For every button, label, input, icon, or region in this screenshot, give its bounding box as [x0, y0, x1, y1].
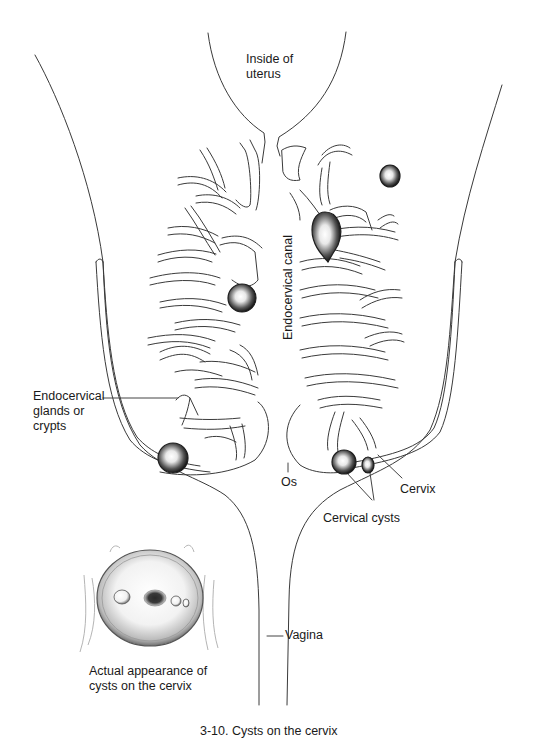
label-glands-line1: Endocervical: [33, 389, 105, 404]
inset-cyst-2: [171, 596, 181, 606]
cyst-left-middle: [228, 284, 256, 312]
cervix-leader-line: [378, 455, 402, 478]
figure-caption: 3-10. Cysts on the cervix: [200, 724, 338, 739]
label-glands-line3: crypts: [33, 419, 105, 434]
right-endocervical-glands: [282, 145, 404, 452]
inset-caption-line1: Actual appearance of: [89, 664, 207, 679]
label-vagina: Vagina: [285, 628, 323, 643]
cervix-wall-right-outer: [352, 262, 462, 468]
label-inside-uterus: Inside of uterus: [246, 52, 293, 82]
label-cervix: Cervix: [400, 482, 435, 497]
cyst-left-bottom: [158, 443, 188, 473]
cyst-teardrop: [312, 212, 341, 262]
label-endocervical-canal: Endocervical canal: [281, 235, 295, 340]
cyst-right-bottom-large: [332, 450, 356, 474]
cervix-wall-left-inner: [103, 262, 200, 466]
inset-caption-line2: cysts on the cervix: [89, 679, 207, 694]
cysts-leader-line-2: [370, 473, 374, 500]
label-endocervical-glands: Endocervical glands or crypts: [33, 389, 105, 434]
label-inset-caption: Actual appearance of cysts on the cervix: [89, 664, 207, 694]
label-os: Os: [281, 475, 297, 490]
cyst-top-right: [380, 165, 400, 187]
cyst-right-bottom-small: [362, 457, 374, 473]
label-glands-line2: glands or: [33, 404, 105, 419]
label-cervical-cysts: Cervical cysts: [323, 511, 400, 526]
inset-cyst-1: [114, 590, 130, 604]
inset-cyst-3: [183, 599, 189, 607]
cervix-inset-illustration: [80, 545, 218, 652]
label-inside-uterus-line1: Inside of: [246, 52, 293, 67]
inset-os: [144, 590, 166, 606]
label-inside-uterus-line2: uterus: [246, 67, 293, 82]
uterine-cavity-right: [277, 32, 346, 156]
